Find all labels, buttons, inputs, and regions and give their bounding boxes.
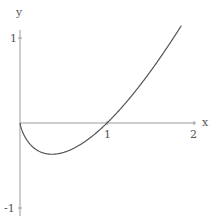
y-axis-label: y xyxy=(15,6,23,19)
y-tick-label-m1: -1 xyxy=(4,202,15,215)
y-tick-label-1: 1 xyxy=(10,32,17,45)
x-tick-label-1: 1 xyxy=(104,128,111,141)
plot-canvas: y x 1 2 1 -1 xyxy=(0,0,220,223)
x-tick-label-2: 2 xyxy=(190,128,197,141)
function-curve xyxy=(20,26,181,155)
x-axis-label: x xyxy=(202,116,209,129)
